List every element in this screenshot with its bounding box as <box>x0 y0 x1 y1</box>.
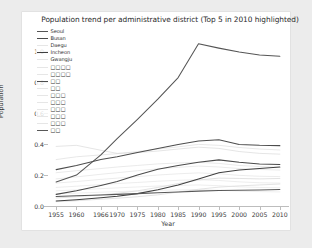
x-tick-mark <box>199 206 200 210</box>
x-tick-mark <box>178 206 179 210</box>
series-lines <box>48 28 288 206</box>
x-tick-mark <box>137 206 138 210</box>
legend-item-label: □□□□ <box>51 64 71 71</box>
legend-item[interactable]: □□ <box>36 127 82 134</box>
y-tick-mark <box>44 206 48 207</box>
legend-item-label: Gwangju <box>51 56 73 63</box>
series-line <box>56 140 280 170</box>
legend-item[interactable]: □□□□ <box>36 71 82 78</box>
legend-color-swatch <box>37 59 48 60</box>
legend-color-swatch <box>37 45 48 46</box>
legend-item-label: □□ <box>51 78 61 85</box>
x-tick-mark <box>158 206 159 210</box>
legend-item[interactable]: Daegu <box>36 42 82 49</box>
x-tick-mark <box>56 206 57 210</box>
legend-item[interactable]: Gwangju <box>36 56 82 63</box>
legend-color-swatch <box>37 31 48 32</box>
legend-color-swatch <box>37 123 48 124</box>
x-tick-mark <box>239 206 240 210</box>
legend-color-swatch <box>37 95 48 96</box>
legend-item[interactable]: □□□ <box>36 99 82 106</box>
legend-item[interactable]: Incheon <box>36 49 82 56</box>
legend-item-label: Seoul <box>51 28 65 35</box>
y-tick-label: 0.4 <box>18 141 44 148</box>
legend-item[interactable]: Seoul <box>36 28 82 35</box>
series-line <box>56 44 280 182</box>
legend-color-swatch <box>37 130 48 131</box>
legend-item[interactable]: □□□□ <box>36 63 82 70</box>
legend-item-label: □□□ <box>51 113 66 120</box>
legend-color-swatch <box>37 88 48 89</box>
legend-color-swatch <box>37 102 48 103</box>
x-tick-mark <box>280 206 281 210</box>
legend-color-swatch <box>37 67 48 68</box>
series-line <box>56 173 280 183</box>
legend-item-label: □□ <box>51 127 61 134</box>
legend[interactable]: SeoulBusanDaeguIncheonGwangju□□□□□□□□□□□… <box>36 28 82 134</box>
legend-item-label: □□□ <box>51 92 66 99</box>
legend-item[interactable]: □□□ <box>36 113 82 120</box>
y-tick-mark <box>44 175 48 176</box>
y-tick-label: 0.2 <box>18 172 44 179</box>
x-tick-label: 2010 <box>265 211 295 218</box>
legend-color-swatch <box>37 109 48 110</box>
x-tick-mark <box>117 206 118 210</box>
x-tick-mark <box>219 206 220 210</box>
y-tick-mark <box>44 144 48 145</box>
series-line <box>56 180 280 188</box>
legend-color-swatch <box>37 116 48 117</box>
legend-item-label: Busan <box>51 35 66 42</box>
y-tick-label: 0.0 <box>18 203 44 210</box>
legend-color-swatch <box>37 38 48 39</box>
x-tick-mark <box>260 206 261 210</box>
legend-item-label: Daegu <box>51 42 67 49</box>
series-line <box>56 166 280 179</box>
x-axis-label: Year <box>48 220 288 228</box>
x-tick-mark <box>101 206 102 210</box>
legend-item-label: □□□ <box>51 120 66 127</box>
legend-item-label: □□□ <box>51 106 66 113</box>
legend-item[interactable]: □□ <box>36 78 82 85</box>
legend-item-label: □□□□ <box>51 71 71 78</box>
legend-color-swatch <box>37 81 48 82</box>
legend-item[interactable]: Busan <box>36 35 82 42</box>
legend-item[interactable]: □□□ <box>36 92 82 99</box>
legend-color-swatch <box>37 74 48 75</box>
plot-area <box>48 28 288 206</box>
chart-title: Population trend per administrative dist… <box>34 15 306 24</box>
legend-color-swatch <box>37 52 48 53</box>
legend-item[interactable]: □□□ <box>36 120 82 127</box>
legend-item-label: □□□ <box>51 99 66 106</box>
y-axis-label: Population <box>0 84 5 118</box>
legend-item[interactable]: □□□ <box>36 106 82 113</box>
legend-item-label: Incheon <box>51 49 71 56</box>
legend-item[interactable]: □□ <box>36 85 82 92</box>
figure-canvas: Population trend per administrative dist… <box>0 0 312 248</box>
x-tick-mark <box>76 206 77 210</box>
legend-item-label: □□ <box>51 85 61 92</box>
